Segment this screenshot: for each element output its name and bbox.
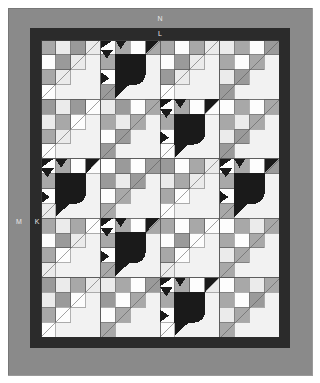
patch-square bbox=[234, 292, 249, 307]
patch-square bbox=[56, 55, 71, 70]
patch-square bbox=[175, 55, 190, 70]
patch-square bbox=[41, 218, 56, 233]
quilt-block bbox=[101, 278, 161, 337]
patch-square bbox=[249, 159, 264, 174]
patch-square bbox=[41, 70, 56, 85]
patch-square bbox=[220, 129, 235, 144]
patch-square bbox=[41, 99, 56, 114]
patch-square bbox=[190, 278, 205, 293]
patch-square bbox=[160, 189, 175, 204]
crab-eye bbox=[184, 295, 186, 297]
crab-eye bbox=[65, 176, 67, 178]
patch-square bbox=[101, 114, 116, 129]
quilt-block bbox=[160, 278, 220, 337]
patch-square bbox=[41, 278, 56, 293]
quilt-block bbox=[220, 278, 280, 337]
patch-square bbox=[220, 292, 235, 307]
patch-square bbox=[220, 278, 235, 293]
quilt-block bbox=[220, 40, 280, 99]
patch-square bbox=[71, 278, 86, 293]
patch-square bbox=[56, 114, 71, 129]
patch-square bbox=[115, 159, 130, 174]
patch-square bbox=[101, 159, 116, 174]
patch-square bbox=[249, 218, 264, 233]
patch-square bbox=[101, 129, 116, 144]
quilt-block bbox=[220, 159, 280, 218]
patch-square bbox=[115, 292, 130, 307]
patch-square bbox=[190, 218, 205, 233]
patch-square bbox=[130, 40, 145, 55]
patch-square bbox=[160, 292, 175, 307]
patch-square bbox=[41, 233, 56, 248]
patch-square bbox=[160, 233, 175, 248]
patch-square bbox=[220, 99, 235, 114]
patch-square bbox=[220, 248, 235, 263]
patch-square bbox=[220, 307, 235, 322]
quilt-block bbox=[101, 159, 161, 218]
patch-square bbox=[101, 189, 116, 204]
patch-square bbox=[101, 278, 116, 293]
quilt-block bbox=[220, 99, 280, 158]
crab-eye bbox=[119, 59, 121, 61]
quilt-block bbox=[101, 40, 161, 99]
crab-eye bbox=[124, 236, 126, 238]
patch-square bbox=[220, 70, 235, 85]
patch-square bbox=[234, 99, 249, 114]
quilt-diagram-canvas: NLMK bbox=[0, 0, 320, 383]
crab-eye bbox=[179, 297, 181, 299]
patch-square bbox=[101, 55, 116, 70]
patch-square bbox=[101, 233, 116, 248]
patch-square bbox=[234, 218, 249, 233]
quilt-block bbox=[160, 99, 220, 158]
patch-square bbox=[175, 174, 190, 189]
crab-body bbox=[174, 292, 205, 323]
patch-square bbox=[56, 99, 71, 114]
patch-square bbox=[130, 159, 145, 174]
patch-square bbox=[234, 114, 249, 129]
crab-eye bbox=[60, 178, 62, 180]
patch-square bbox=[101, 292, 116, 307]
patch-square bbox=[234, 233, 249, 248]
patch-square bbox=[220, 40, 235, 55]
patch-square bbox=[130, 278, 145, 293]
patch-square bbox=[160, 55, 175, 70]
quilt-block bbox=[41, 40, 101, 99]
patch-square bbox=[160, 70, 175, 85]
patch-square bbox=[41, 307, 56, 322]
patch-square bbox=[41, 55, 56, 70]
patch-square bbox=[160, 248, 175, 263]
patch-square bbox=[190, 99, 205, 114]
patch-square bbox=[41, 114, 56, 129]
patch-square bbox=[220, 233, 235, 248]
crab-eye bbox=[119, 238, 121, 240]
patch-square bbox=[101, 307, 116, 322]
quilt-block bbox=[220, 218, 280, 277]
patch-square bbox=[160, 40, 175, 55]
patch-square bbox=[190, 40, 205, 55]
crab-body bbox=[115, 54, 146, 85]
patch-square bbox=[71, 159, 86, 174]
patch-square bbox=[160, 174, 175, 189]
quilt-block bbox=[41, 278, 101, 337]
patch-square bbox=[71, 40, 86, 55]
patch-square bbox=[41, 248, 56, 263]
patch-square bbox=[190, 159, 205, 174]
patch-square bbox=[115, 114, 130, 129]
patch-square bbox=[41, 40, 56, 55]
patch-square bbox=[160, 159, 175, 174]
crab-eye bbox=[184, 117, 186, 119]
patch-square bbox=[234, 55, 249, 70]
crab-eye bbox=[238, 178, 240, 180]
patch-square bbox=[101, 174, 116, 189]
quilt-block bbox=[101, 99, 161, 158]
patch-square bbox=[130, 99, 145, 114]
crab-eye bbox=[243, 176, 245, 178]
patch-square bbox=[41, 129, 56, 144]
patch-square bbox=[101, 99, 116, 114]
quilt-block bbox=[101, 218, 161, 277]
quilt-block bbox=[160, 40, 220, 99]
patch-square bbox=[115, 174, 130, 189]
patch-square bbox=[115, 278, 130, 293]
quilt-blocks bbox=[41, 40, 279, 337]
crab-eye bbox=[179, 119, 181, 121]
